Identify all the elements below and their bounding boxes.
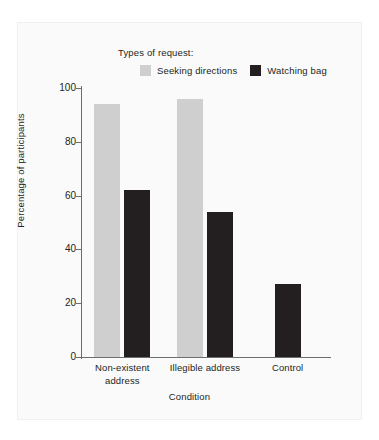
chart-figure: Types of request: Seeking directions Wat… bbox=[0, 0, 379, 440]
x-axis-line bbox=[81, 357, 331, 358]
legend-entry-watching-bag: Watching bag bbox=[250, 65, 327, 76]
legend-entries: Seeking directions Watching bag bbox=[118, 65, 348, 76]
bar-seeking-directions-illegible-address bbox=[177, 99, 203, 357]
legend-swatch-watching-bag bbox=[250, 65, 261, 76]
y-axis-tick-label: 40 bbox=[65, 243, 76, 254]
y-axis-tick-label: 80 bbox=[65, 136, 76, 147]
bar-seeking-directions-non-existent-address bbox=[94, 104, 120, 357]
chart-legend: Types of request: Seeking directions Wat… bbox=[118, 47, 348, 76]
y-axis-tick-label: 20 bbox=[65, 297, 76, 308]
x-axis-title: Condition bbox=[0, 391, 379, 402]
legend-swatch-seeking-directions bbox=[140, 65, 151, 76]
y-axis-tick-label: 0 bbox=[70, 351, 76, 362]
y-axis-tick-label: 60 bbox=[65, 190, 76, 201]
y-axis-tick bbox=[76, 357, 81, 358]
bar-watching-bag-control bbox=[275, 284, 301, 357]
legend-title: Types of request: bbox=[118, 47, 348, 58]
legend-entry-seeking-directions: Seeking directions bbox=[140, 65, 237, 76]
y-axis-tick-labels: 020406080100 bbox=[49, 88, 76, 357]
legend-label-seeking-directions: Seeking directions bbox=[157, 65, 237, 76]
legend-label-watching-bag: Watching bag bbox=[267, 65, 327, 76]
bar-watching-bag-non-existent-address bbox=[124, 190, 150, 357]
x-axis-tick-label: Control bbox=[238, 362, 338, 375]
y-axis-tick-label: 100 bbox=[59, 82, 76, 93]
y-axis-title: Percentage of participants bbox=[15, 71, 26, 271]
plot-area bbox=[81, 88, 329, 357]
bar-watching-bag-illegible-address bbox=[207, 212, 233, 357]
